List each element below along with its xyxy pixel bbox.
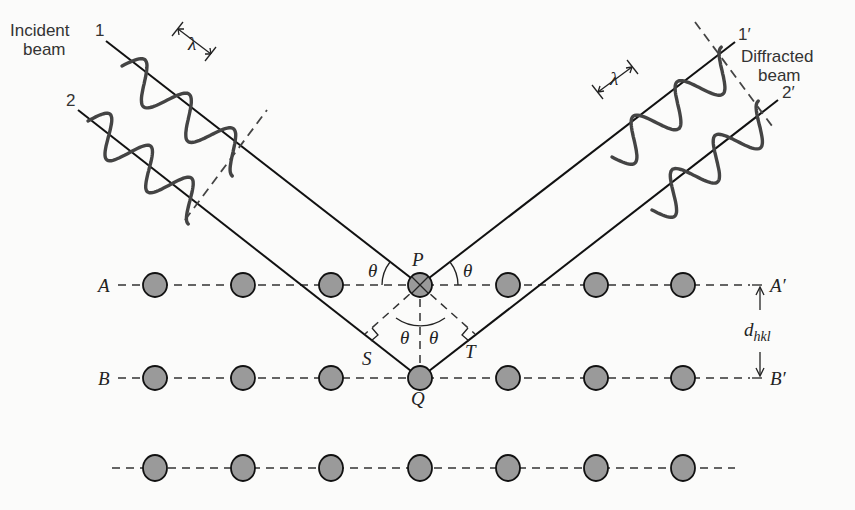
right-angle-s	[371, 328, 378, 341]
atom	[671, 273, 695, 297]
ray-1-prime-label: 1′	[738, 25, 751, 44]
atom	[231, 455, 255, 481]
point-q-label: Q	[411, 388, 425, 409]
atom	[319, 366, 343, 390]
plane-b-label: B	[98, 368, 110, 389]
atom	[231, 273, 255, 297]
wavelength-marker-incident: λ	[172, 22, 216, 61]
atom	[496, 455, 520, 481]
angle-arc-left	[382, 262, 390, 285]
atom	[584, 366, 608, 390]
theta-left-label: θ	[368, 260, 377, 281]
diagram-canvas: λ λ Incident beam 1 2	[0, 0, 855, 510]
right-angle-t	[462, 328, 469, 341]
atom	[408, 455, 432, 481]
rays	[78, 41, 778, 378]
ray-2-prime-label: 2′	[782, 83, 795, 102]
atom	[496, 366, 520, 390]
atom	[143, 273, 167, 297]
incident-ray-1	[106, 41, 420, 285]
atom	[143, 366, 167, 390]
plane-a-prime-label: A′	[768, 275, 787, 296]
ray-2-label: 2	[66, 91, 75, 110]
plane-a-label: A	[96, 275, 110, 296]
theta-right-label: θ	[463, 260, 472, 281]
wave	[652, 101, 762, 217]
atom	[319, 455, 343, 481]
incident-beam-label-line2: beam	[23, 40, 66, 59]
ray-1-label: 1	[95, 21, 104, 40]
atom	[319, 273, 343, 297]
wavelength-label-diffracted: λ	[609, 68, 618, 89]
theta-bottom-right-label: θ	[429, 327, 438, 348]
interplanar-spacing-label: dhkl	[744, 319, 771, 344]
atom	[584, 273, 608, 297]
atom	[584, 455, 608, 481]
atoms	[143, 273, 695, 481]
atom	[231, 366, 255, 390]
bragg-diffraction-diagram: λ λ Incident beam 1 2	[0, 0, 855, 510]
incident-wavefront	[185, 110, 267, 220]
plane-b-prime-label: B′	[770, 368, 787, 389]
point-p-label: P	[411, 249, 424, 270]
wave	[612, 47, 725, 164]
wavelength-marker-diffracted: λ	[592, 60, 638, 99]
atom	[143, 455, 167, 481]
point-t-label: T	[465, 341, 477, 362]
theta-bottom-left-label: θ	[400, 327, 409, 348]
atom	[671, 455, 695, 481]
diffracted-ray-1	[420, 42, 735, 285]
diffracted-ray-2	[420, 100, 778, 378]
point-s-label: S	[362, 348, 372, 369]
atom	[671, 366, 695, 390]
wavelength-label: λ	[187, 33, 196, 54]
labels: Incident beam 1 2 1′ Diffracted beam 2′ …	[10, 21, 813, 409]
incident-beam-label-line1: Incident	[10, 21, 70, 40]
wavefronts	[185, 22, 775, 220]
angle-arc-right	[450, 262, 458, 285]
diffracted-beam-label-line1: Diffracted	[741, 47, 813, 66]
atom	[408, 366, 432, 390]
wave-trains	[88, 47, 762, 224]
atom	[496, 273, 520, 297]
